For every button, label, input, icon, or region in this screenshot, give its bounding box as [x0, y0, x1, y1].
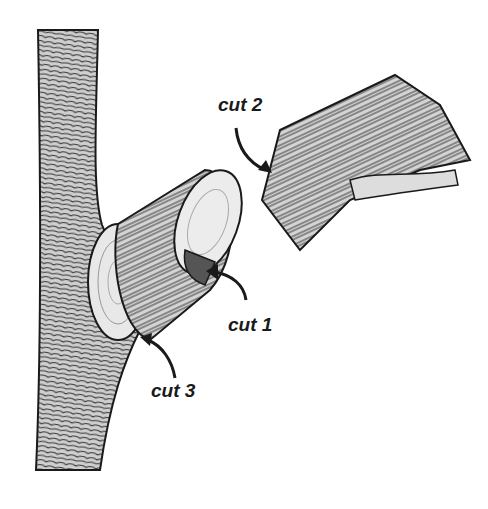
cut3-label: cut 3 [151, 380, 195, 402]
cut3-arrow-icon [148, 340, 175, 378]
pruning-diagram: cut 2 cut 1 cut 3 [0, 0, 488, 509]
cut-branch [262, 75, 470, 250]
cut1-label: cut 1 [228, 314, 272, 336]
tree-illustration [0, 0, 488, 509]
cut2-label: cut 2 [218, 94, 262, 116]
cut2-arrow-icon [236, 128, 265, 170]
